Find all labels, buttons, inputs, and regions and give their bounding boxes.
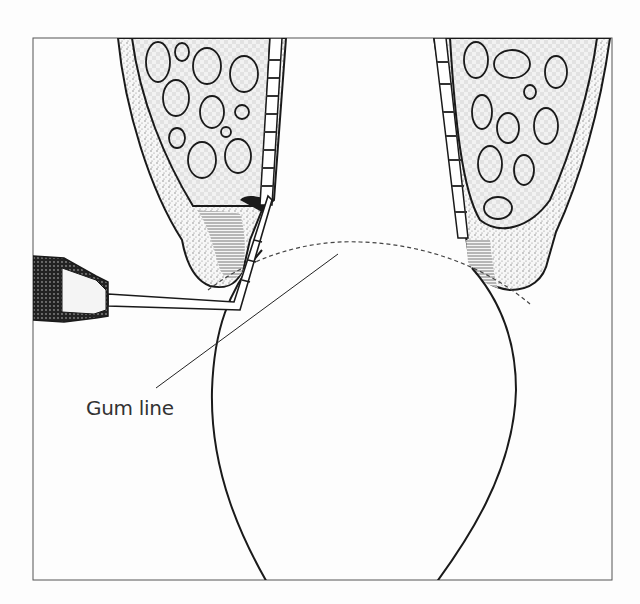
dental-diagram — [0, 0, 640, 604]
gum-line-label: Gum line — [86, 396, 174, 420]
